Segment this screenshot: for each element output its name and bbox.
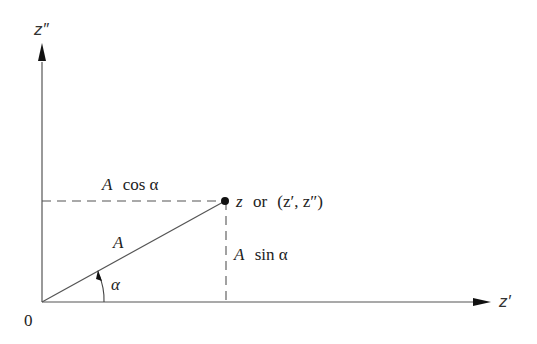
point-or: or xyxy=(253,192,268,211)
vector-line xyxy=(42,201,225,302)
vector-magnitude-label: A xyxy=(112,233,124,252)
phasor-diagram: z″ z′ 0 A cos α z or (z′, z″) A A sin α … xyxy=(0,0,537,344)
up-arrow-icon xyxy=(38,43,46,61)
point-marker xyxy=(221,197,229,205)
sin-term: sin α xyxy=(255,245,288,264)
amplitude-symbol: A xyxy=(101,175,113,194)
amplitude-symbol: A xyxy=(233,245,245,264)
angle-arc xyxy=(96,270,104,302)
point-coords: (z′, z″) xyxy=(277,192,323,211)
vertical-axis xyxy=(38,43,46,302)
horizontal-axis-label: z′ xyxy=(498,292,512,311)
vertical-projection-label: A sin α xyxy=(233,245,288,264)
horizontal-projection-label: A cos α xyxy=(101,175,159,194)
horizontal-axis xyxy=(42,298,491,306)
point-z: z xyxy=(235,192,243,211)
right-arrow-icon xyxy=(473,298,491,306)
vertical-axis-label: z″ xyxy=(33,20,50,39)
point-label: z or (z′, z″) xyxy=(235,192,323,211)
cos-term: cos α xyxy=(123,175,159,194)
origin-label: 0 xyxy=(24,311,33,330)
angle-label: α xyxy=(111,275,121,294)
